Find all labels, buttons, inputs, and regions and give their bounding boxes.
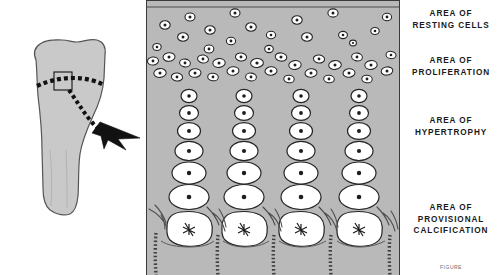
label-area-of-hypertrophy: AREA OF HYPERTROPHY bbox=[401, 115, 501, 138]
histology-svg bbox=[147, 1, 400, 275]
label-area-of-provisional-calcification: AREA OF PROVISIONAL CALCIFICATION bbox=[401, 202, 501, 237]
label-hypertrophy-line1: AREA OF bbox=[401, 115, 501, 127]
label-calcification-line3: CALCIFICATION bbox=[401, 225, 501, 237]
label-resting-line2: RESTING CELLS bbox=[401, 20, 501, 32]
histology-magnified-panel bbox=[146, 0, 400, 275]
label-calcification-line2: PROVISIONAL bbox=[401, 214, 501, 226]
label-resting-line1: AREA OF bbox=[401, 8, 501, 20]
growth-plate-figure: AREA OF RESTING CELLS AREA OF PROLIFERAT… bbox=[0, 0, 501, 275]
label-area-of-proliferation: AREA OF PROLIFERATION bbox=[401, 55, 501, 78]
label-area-of-resting-cells: AREA OF RESTING CELLS bbox=[401, 8, 501, 31]
figure-caption: FIGURE bbox=[401, 264, 501, 275]
bone-illustration bbox=[0, 0, 146, 275]
label-proliferation-line1: AREA OF bbox=[401, 55, 501, 67]
label-calcification-line1: AREA OF bbox=[401, 202, 501, 214]
bone-shape bbox=[34, 39, 105, 214]
pointer-arrowhead bbox=[92, 122, 140, 150]
bone-illustration-svg bbox=[0, 0, 146, 275]
label-proliferation-line2: PROLIFERATION bbox=[401, 67, 501, 79]
label-hypertrophy-line2: HYPERTROPHY bbox=[401, 127, 501, 139]
zone-label-column: AREA OF RESTING CELLS AREA OF PROLIFERAT… bbox=[401, 0, 501, 275]
